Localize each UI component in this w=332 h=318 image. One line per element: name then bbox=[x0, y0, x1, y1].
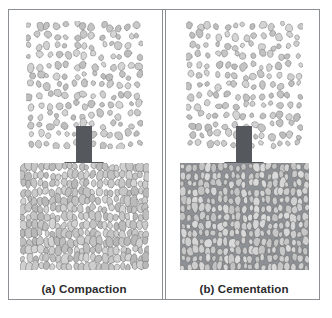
panel-container: (a) Compaction bbox=[9, 10, 319, 299]
panel-compaction: (a) Compaction bbox=[9, 10, 159, 299]
compacted-grain-field-icon bbox=[20, 163, 149, 271]
panel-label-cementation: (b) Cementation bbox=[169, 283, 319, 295]
compacted-sediment-a bbox=[20, 163, 149, 271]
figure-root: (a) Compaction bbox=[0, 0, 332, 318]
panel-label-compaction: (a) Compaction bbox=[9, 283, 159, 295]
figure-frame: (a) Compaction bbox=[8, 9, 320, 300]
cemented-grain-field-icon bbox=[180, 163, 309, 271]
panel-cementation-stage bbox=[169, 10, 319, 273]
figure-partial-caption bbox=[10, 306, 300, 316]
panel-cementation: (b) Cementation bbox=[169, 10, 319, 299]
cemented-sediment-b bbox=[180, 163, 309, 271]
panel-divider bbox=[162, 10, 166, 299]
panel-compaction-stage bbox=[9, 10, 159, 273]
